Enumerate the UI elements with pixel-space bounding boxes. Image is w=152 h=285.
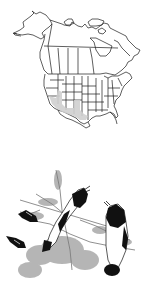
- province-line: [58, 48, 60, 74]
- province-line: [48, 24, 52, 74]
- bird-right: [104, 201, 128, 276]
- arctic-island: [98, 28, 106, 34]
- province-line: [44, 46, 118, 48]
- range-map-svg: [0, 0, 152, 150]
- arctic-island: [88, 19, 104, 26]
- province-line: [90, 48, 94, 74]
- bird-flying-2: [6, 236, 26, 248]
- alaska-outline: [14, 11, 52, 39]
- bird-illustration: [0, 150, 152, 285]
- bird-illustration-svg: [0, 150, 152, 285]
- range-map: [0, 0, 152, 150]
